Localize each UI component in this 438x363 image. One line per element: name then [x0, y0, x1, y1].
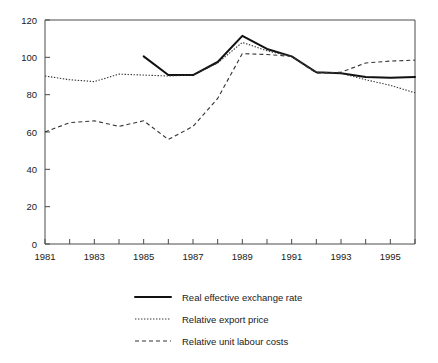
x-tick-label: 1985	[133, 251, 154, 262]
y-tick-label: 40	[26, 164, 37, 175]
x-tick-label: 1995	[380, 251, 401, 262]
x-tick-label: 1989	[232, 251, 253, 262]
x-tick-label: 1991	[281, 251, 302, 262]
x-tick-label: 1993	[330, 251, 351, 262]
y-tick-label: 60	[26, 127, 37, 138]
x-tick-label: 1987	[182, 251, 203, 262]
legend-label: Real effective exchange rate	[182, 292, 302, 303]
chart-figure: 020406080100120 198119831985198719891991…	[0, 0, 438, 363]
y-tick-label: 80	[26, 89, 37, 100]
legend-label: Relative export price	[182, 314, 269, 325]
y-tick-label: 120	[21, 15, 37, 26]
legend-label: Relative unit labour costs	[182, 336, 288, 347]
y-tick-label: 100	[21, 52, 37, 63]
chart-background	[0, 0, 438, 363]
y-tick-label: 20	[26, 201, 37, 212]
x-tick-label: 1983	[84, 251, 105, 262]
x-tick-label: 1981	[34, 251, 55, 262]
y-tick-label: 0	[32, 239, 37, 250]
